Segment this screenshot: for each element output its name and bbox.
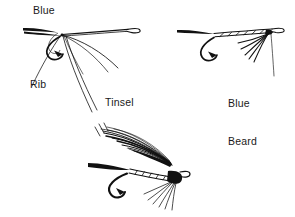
label-blue-beard-line1: Blue [228, 97, 257, 110]
illustration-page: Blue Rib Tinsel Blue Beard [0, 0, 295, 217]
label-rib: Rib [30, 78, 46, 91]
label-tinsel: Tinsel [105, 96, 134, 109]
label-blue-beard: Blue Beard [228, 72, 257, 172]
head-wrap [265, 30, 273, 35]
label-blue: Blue [33, 4, 55, 17]
label-blue-beard-line2: Beard [228, 135, 257, 148]
